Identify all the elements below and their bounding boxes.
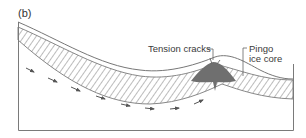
pingo-diagram [0,0,306,138]
panel-label: (b) [18,8,31,18]
pingo-ice-core-label: Pingo ice core [249,44,282,64]
tension-cracks-label: Tension cracks [148,44,211,54]
pingo-label-line2: ice core [249,54,282,64]
